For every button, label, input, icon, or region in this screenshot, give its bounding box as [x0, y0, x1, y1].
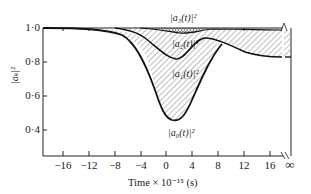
- a3-label: |a₃(t)|²: [170, 12, 196, 23]
- infinity-column: [284, 30, 290, 57]
- xtick-label: 12: [232, 160, 256, 171]
- y-ticks: [43, 28, 47, 130]
- ytick-label-0-8: 0·8: [10, 56, 40, 67]
- a1-label: |a₁(t)|²: [172, 68, 198, 79]
- y-axis-label: |aₖ|²: [9, 67, 20, 84]
- xtick-label: 4: [180, 160, 204, 171]
- xtick-label: −16: [51, 160, 75, 171]
- xtick-label: −12: [77, 160, 101, 171]
- xtick-label-infinity: ∞: [278, 159, 302, 170]
- a2-label: |a₂(t)|²: [172, 38, 198, 49]
- x-axis-label: Time × 10⁻¹⁵ (s): [128, 176, 198, 188]
- xtick-label: 8: [206, 160, 230, 171]
- ytick-label-0-4: 0·4: [10, 124, 40, 135]
- a0-label: |a₀(t)|²: [168, 127, 194, 138]
- xtick-label: −8: [103, 160, 127, 171]
- xtick-label: −4: [129, 160, 153, 171]
- ytick-label-0-6: 0·6: [10, 90, 40, 101]
- ytick-label-1-0: 1·0: [10, 22, 40, 33]
- xtick-label: 0: [154, 160, 178, 171]
